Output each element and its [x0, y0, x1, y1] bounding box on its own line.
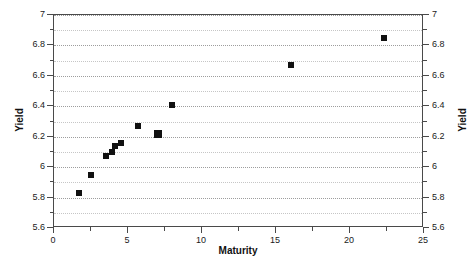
y-tick-right-major: [423, 75, 429, 76]
data-point: [109, 149, 115, 155]
y-tick-left-minor: [50, 60, 54, 61]
y-tick-left-minor: [50, 90, 54, 91]
y-tick-left-minor: [50, 151, 54, 152]
x-tick-label: 5: [124, 236, 129, 245]
y-tick-label-right: 6: [432, 162, 437, 171]
x-tick-label: 15: [270, 236, 280, 245]
y-tick-left-minor: [50, 212, 54, 213]
x-tick-label: 10: [196, 236, 206, 245]
y-tick-right-major: [423, 136, 429, 137]
y-tick-label-left: 7: [40, 10, 45, 19]
gridline-minor: [54, 122, 422, 123]
y-tick-left-major: [47, 105, 53, 106]
x-tick-major: [349, 227, 350, 233]
gridline-major: [54, 167, 422, 168]
gridline-minor: [54, 213, 422, 214]
y-tick-right-minor: [423, 121, 427, 122]
y-tick-left-major: [47, 136, 53, 137]
gridline-major: [54, 15, 422, 16]
y-tick-label-left: 6: [40, 162, 45, 171]
y-tick-label-right: 7: [432, 10, 437, 19]
x-tick-minor: [90, 227, 91, 231]
y-tick-right-minor: [423, 29, 427, 30]
y-tick-label-left: 6.6: [32, 70, 45, 79]
y-tick-label-left: 6.2: [32, 131, 45, 140]
data-point: [76, 190, 82, 196]
y-tick-right-major: [423, 105, 429, 106]
y-tick-right-major: [423, 44, 429, 45]
y-tick-right-minor: [423, 90, 427, 91]
gridline-minor: [54, 61, 422, 62]
gridline-major: [54, 198, 422, 199]
x-tick-label: 25: [418, 236, 428, 245]
y-tick-right-minor: [423, 151, 427, 152]
y-tick-left-major: [47, 14, 53, 15]
x-tick-minor: [386, 227, 387, 231]
y-tick-right-minor: [423, 212, 427, 213]
y-tick-left-minor: [50, 121, 54, 122]
gridline-minor: [54, 91, 422, 92]
y-tick-left-minor: [50, 181, 54, 182]
y-tick-label-left: 5.6: [32, 223, 45, 232]
y-tick-right-minor: [423, 181, 427, 182]
y-tick-label-right: 6.8: [432, 40, 445, 49]
gridline-major: [54, 137, 422, 138]
y-tick-label-right: 5.8: [432, 192, 445, 201]
data-point: [88, 172, 94, 178]
gridline-minor: [54, 30, 422, 31]
y-tick-label-right: 6.4: [432, 101, 445, 110]
gridline-minor: [54, 182, 422, 183]
x-tick-major: [53, 227, 54, 233]
data-point: [118, 140, 124, 146]
x-tick-minor: [164, 227, 165, 231]
x-tick-label: 20: [344, 236, 354, 245]
y-tick-left-major: [47, 44, 53, 45]
y-tick-left-major: [47, 197, 53, 198]
gridline-major: [54, 106, 422, 107]
y-tick-left-major: [47, 166, 53, 167]
gridline-major: [54, 76, 422, 77]
data-point: [381, 35, 387, 41]
x-tick-label: 0: [50, 236, 55, 245]
y-tick-label-right: 6.2: [432, 131, 445, 140]
gridline-major: [54, 45, 422, 46]
y-tick-right-major: [423, 197, 429, 198]
x-tick-major: [127, 227, 128, 233]
x-tick-major: [201, 227, 202, 233]
x-tick-minor: [312, 227, 313, 231]
y-tick-right-major: [423, 14, 429, 15]
x-tick-major: [275, 227, 276, 233]
y-tick-label-left: 5.8: [32, 192, 45, 201]
data-point: [288, 62, 294, 68]
y-tick-label-right: 6.6: [432, 70, 445, 79]
y-tick-left-major: [47, 75, 53, 76]
data-point: [154, 130, 162, 138]
y-tick-label-right: 5.6: [432, 223, 445, 232]
y-tick-left-minor: [50, 29, 54, 30]
x-axis-title: Maturity: [219, 245, 258, 256]
y-tick-right-minor: [423, 60, 427, 61]
y-tick-label-left: 6.8: [32, 40, 45, 49]
x-tick-major: [423, 227, 424, 233]
y-tick-right-major: [423, 166, 429, 167]
x-tick-minor: [238, 227, 239, 231]
scatter-chart-figure: Yield Yield Maturity 5.65.65.85.8666.26.…: [0, 0, 471, 269]
y-axis-title-right: Yield: [457, 108, 468, 132]
plot-area: [53, 14, 423, 227]
data-point: [169, 102, 175, 108]
y-axis-title-left: Yield: [14, 108, 25, 132]
y-tick-label-left: 6.4: [32, 101, 45, 110]
data-point: [135, 123, 141, 129]
